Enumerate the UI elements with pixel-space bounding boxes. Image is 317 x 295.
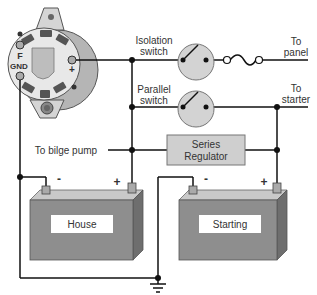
alternator-terminal-gnd: GND	[10, 62, 28, 71]
starting-pos-sign: +	[260, 175, 267, 189]
starting-neg-terminal	[189, 186, 197, 194]
wiring-diagram: F GND +	[0, 0, 317, 295]
isolation-switch-label: Isolation	[135, 35, 172, 46]
house-pos-terminal	[128, 183, 136, 193]
starting-battery-label: Starting	[213, 219, 247, 230]
regulator-label: Series	[192, 139, 220, 150]
isolation-switch	[178, 44, 214, 80]
alternator-terminal-f: F	[17, 51, 23, 61]
fuse-terminal	[256, 57, 263, 64]
alternator-terminal-plus: +	[69, 64, 75, 75]
bilge-pump-label: To bilge pump	[35, 145, 98, 156]
to-starter-label: starter	[282, 94, 311, 105]
starting-pos-terminal	[273, 183, 281, 193]
parallel-switch-label: switch	[140, 95, 168, 106]
to-starter-label: To	[291, 83, 302, 94]
alternator: F GND +	[8, 8, 98, 118]
parallel-switch	[178, 91, 214, 127]
house-pos-sign: +	[113, 175, 120, 189]
house-battery: House	[30, 183, 143, 260]
to-panel-label: To	[291, 36, 302, 47]
starting-battery: Starting	[179, 183, 287, 260]
starting-neg-sign: -	[204, 172, 208, 186]
house-neg-terminal	[42, 186, 50, 194]
house-neg-sign: -	[57, 172, 61, 186]
series-regulator: Series Regulator	[167, 135, 245, 165]
regulator-label: Regulator	[184, 151, 228, 162]
house-battery-label: House	[68, 219, 97, 230]
parallel-switch-label: Parallel	[137, 84, 170, 95]
fuse-terminal	[224, 57, 231, 64]
to-panel-label: panel	[284, 47, 308, 58]
isolation-switch-label: switch	[140, 46, 168, 57]
